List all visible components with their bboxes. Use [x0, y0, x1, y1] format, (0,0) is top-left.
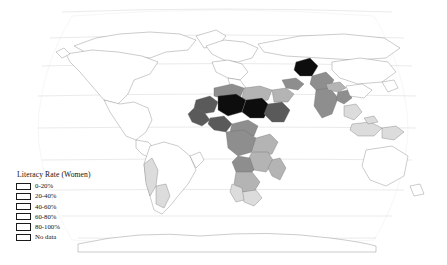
- legend-label-no-data: No data: [35, 233, 56, 241]
- legend-item-80-100: 80-100%: [16, 223, 108, 232]
- legend-item-60-80: 60-80%: [16, 213, 108, 222]
- world-map-figure: Literacy Rate (Women) 0-20% 20-40% 40-60…: [0, 0, 447, 265]
- legend-swatch-no-data: [16, 234, 31, 241]
- legend-label-20-40: 20-40%: [35, 192, 57, 200]
- legend-swatch-20-40: [16, 193, 31, 200]
- legend-item-no-data: No data: [16, 233, 108, 242]
- region-oceania: [362, 146, 424, 196]
- region-antarctica: [78, 233, 376, 252]
- legend-label-60-80: 60-80%: [35, 213, 57, 221]
- legend-swatch-40-60: [16, 203, 31, 210]
- legend-item-0-20: 0-20%: [16, 182, 108, 191]
- region-south-america: [144, 142, 204, 214]
- legend-swatch-80-100: [16, 223, 31, 230]
- legend-title: Literacy Rate (Women): [17, 170, 108, 179]
- legend-item-40-60: 40-60%: [16, 202, 108, 211]
- legend-swatch-0-20: [16, 183, 31, 190]
- map-legend: Literacy Rate (Women) 0-20% 20-40% 40-60…: [16, 170, 108, 243]
- legend-item-20-40: 20-40%: [16, 192, 108, 201]
- legend-swatch-60-80: [16, 213, 31, 220]
- legend-label-0-20: 0-20%: [35, 182, 53, 190]
- region-southeast-asia: [344, 104, 404, 140]
- legend-label-40-60: 40-60%: [35, 203, 57, 211]
- legend-label-80-100: 80-100%: [35, 223, 60, 231]
